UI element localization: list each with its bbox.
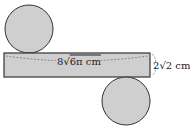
length-label: 8√6π cm (57, 56, 101, 67)
top-base-circle (5, 5, 53, 53)
cylinder-net-diagram: 8√6π cm 2√2 cm (0, 0, 190, 131)
bottom-base-circle (102, 77, 150, 125)
height-label: 2√2 cm (153, 60, 190, 71)
